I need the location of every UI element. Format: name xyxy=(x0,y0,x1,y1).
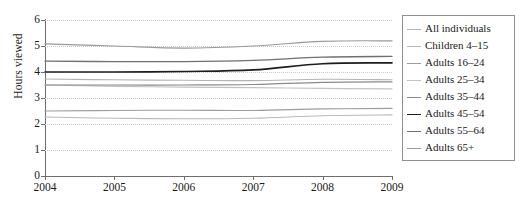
x-axis-line xyxy=(45,176,393,177)
legend-item[interactable]: Adults 25–34 xyxy=(407,71,511,88)
x-axis-tick-label: 2006 xyxy=(159,181,209,194)
y-axis-tick-mark xyxy=(41,124,45,125)
series-line xyxy=(45,82,392,85)
legend-item[interactable]: Adults 65+ xyxy=(407,139,511,156)
legend-item[interactable]: Adults 55–64 xyxy=(407,122,511,139)
chart-legend: All individualsChildren 4–15Adults 16–24… xyxy=(402,15,515,161)
x-axis-tick-label: 2005 xyxy=(89,181,139,194)
legend-item[interactable]: Adults 45–54 xyxy=(407,105,511,122)
legend-swatch-icon xyxy=(407,131,421,132)
legend-item[interactable]: All individuals xyxy=(407,20,511,37)
legend-swatch-icon xyxy=(407,148,421,149)
legend-swatch-icon xyxy=(407,80,421,81)
legend-item-label: Adults 35–44 xyxy=(425,88,485,105)
series-line xyxy=(45,41,392,48)
legend-swatch-icon xyxy=(407,46,421,47)
legend-item-label: Adults 25–34 xyxy=(425,71,485,88)
line-chart-figure: Hours viewed 0123456 2004200520062007200… xyxy=(0,0,519,214)
plot-area xyxy=(45,20,392,176)
legend-item[interactable]: Children 4–15 xyxy=(407,37,511,54)
legend-item-label: Adults 55–64 xyxy=(425,122,485,139)
legend-item[interactable]: Adults 35–44 xyxy=(407,88,511,105)
y-axis-tick-mark xyxy=(41,150,45,151)
legend-item-label: Adults 16–24 xyxy=(425,54,485,71)
legend-item[interactable]: Adults 16–24 xyxy=(407,54,511,71)
series-line xyxy=(45,115,392,119)
legend-item-label: Adults 65+ xyxy=(425,139,474,156)
series-line xyxy=(45,108,392,111)
legend-swatch-icon xyxy=(407,63,421,64)
y-axis-tick-mark xyxy=(41,98,45,99)
legend-swatch-icon xyxy=(407,114,421,115)
series-line xyxy=(45,56,392,61)
legend-swatch-icon xyxy=(407,97,421,98)
x-axis-tick-label: 2008 xyxy=(298,181,348,194)
series-line xyxy=(45,63,392,72)
x-axis-tick-label: 2007 xyxy=(228,181,278,194)
legend-item-label: All individuals xyxy=(425,20,491,37)
legend-item-label: Adults 45–54 xyxy=(425,105,485,122)
series-line xyxy=(45,79,392,81)
y-axis-tick-mark xyxy=(41,176,45,177)
x-axis-tick-label: 2004 xyxy=(20,181,70,194)
legend-swatch-icon xyxy=(407,29,421,30)
y-axis-tick-mark xyxy=(41,20,45,21)
y-axis-tick-mark xyxy=(41,72,45,73)
series-lines xyxy=(45,20,392,176)
legend-item-label: Children 4–15 xyxy=(425,37,488,54)
x-axis-tick-label: 2009 xyxy=(367,181,417,194)
y-axis-tick-mark xyxy=(41,46,45,47)
